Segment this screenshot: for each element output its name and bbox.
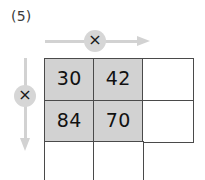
grid-cell-r3-c3	[142, 141, 194, 180]
arrow-down-head	[20, 138, 30, 151]
grid-cell-value: 30	[57, 69, 82, 88]
multiply-icon-horizontal: ×	[84, 30, 106, 52]
grid-cell-r3-c1[interactable]	[44, 141, 95, 180]
grid-cell-r2-c2[interactable]: 70	[93, 100, 144, 143]
grid-cell-value: 42	[106, 69, 131, 88]
grid-cell-r1-c2[interactable]: 42	[93, 58, 144, 102]
multiply-icon-vertical: ×	[14, 85, 36, 107]
grid-cell-value: 84	[57, 111, 82, 130]
multiplication-grid-exercise: (5) × × 30428470	[0, 0, 205, 180]
number-grid: 30428470	[44, 58, 192, 180]
multiply-glyph: ×	[88, 32, 101, 48]
grid-cell-r2-c3[interactable]	[142, 100, 194, 143]
grid-cell-r1-c1[interactable]: 30	[44, 58, 95, 102]
multiply-glyph: ×	[18, 87, 31, 103]
problem-number-label: (5)	[11, 9, 31, 23]
grid-cell-r1-c3[interactable]	[142, 58, 194, 102]
grid-cell-r2-c1[interactable]: 84	[44, 100, 95, 143]
grid-cell-value: 70	[106, 111, 131, 130]
arrow-right-head	[137, 36, 150, 46]
grid-cell-r3-c2[interactable]	[93, 141, 144, 180]
